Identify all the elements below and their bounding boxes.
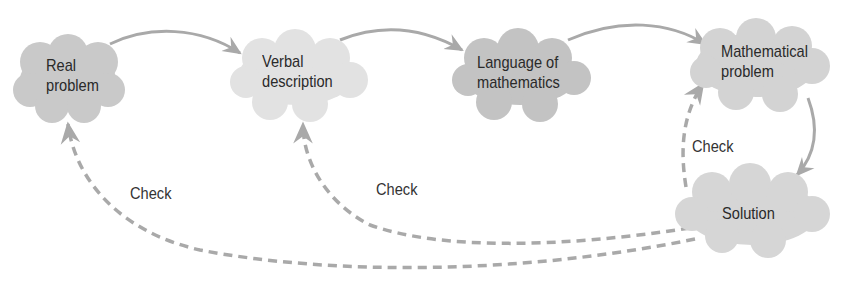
label-line: Solution [722, 204, 775, 224]
label-line: mathematics [477, 73, 560, 93]
arrow-language-to-math [568, 25, 705, 44]
arrow-real-to-verbal [110, 31, 240, 53]
label-line: description [262, 72, 333, 92]
label-line: Mathematical [721, 42, 808, 62]
label-line: problem [721, 62, 808, 82]
label-line: Real [46, 56, 99, 76]
arrow-math-to-solution [797, 98, 815, 175]
label-line: Language of [477, 53, 560, 73]
node-mathematical-problem-label: Mathematical problem [721, 42, 808, 82]
label-line: problem [46, 76, 99, 96]
node-verbal-description-label: Verbal description [262, 52, 333, 92]
check-arrow-solution-to-math [683, 84, 703, 187]
label-line: Verbal [262, 52, 333, 72]
arrow-verbal-to-language [340, 30, 462, 50]
node-solution-label: Solution [722, 204, 775, 224]
check-label-verbal: Check [376, 180, 417, 200]
node-real-problem-label: Real problem [46, 56, 99, 96]
node-language-of-mathematics-label: Language of mathematics [477, 53, 560, 93]
check-label-math: Check [692, 137, 733, 157]
check-arrow-solution-to-verbal [303, 124, 690, 243]
check-label-real: Check [130, 184, 171, 204]
